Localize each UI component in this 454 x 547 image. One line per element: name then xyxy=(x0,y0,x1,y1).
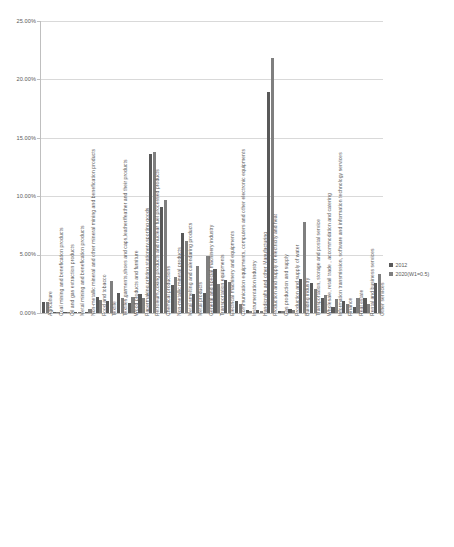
category-label: Food and tobacco xyxy=(101,274,107,316)
category-label: Other services xyxy=(379,282,385,316)
legend-item: 2012 xyxy=(389,262,429,268)
category-label: Transportation, storage and postal servi… xyxy=(315,219,321,316)
bar-chart: 0.00%5.00%10.00%15.00%20.00%25.00% Agric… xyxy=(0,0,454,547)
bar xyxy=(53,312,56,313)
category-label: Non-metallic mineral and other mineral m… xyxy=(90,149,96,316)
category-label: Metal mining and benefication products xyxy=(79,225,85,316)
legend-swatch-2012 xyxy=(389,263,393,267)
bar xyxy=(128,303,131,313)
category-label: Non-metallic mineral products xyxy=(176,247,182,316)
category-label: Instrumentation industry xyxy=(251,260,257,316)
y-axis-line xyxy=(40,21,41,314)
category-label: Real estate xyxy=(358,290,364,316)
category-label: Textile xyxy=(111,301,117,316)
bar xyxy=(85,312,88,313)
bar xyxy=(42,302,45,313)
category-label: Handicrafts and other Manufacturing xyxy=(262,232,268,316)
legend-label: 2020(W1=0.5) xyxy=(396,271,430,277)
bar xyxy=(278,311,281,313)
category-label: Communication equipments, computers and … xyxy=(240,149,246,316)
category-label: Metal products xyxy=(197,282,203,316)
category-label: Rental and business services xyxy=(369,248,375,316)
category-label: Production and supply of water xyxy=(294,245,300,316)
category-label: Papermaking,printing,stationery,sporting… xyxy=(144,208,150,316)
bar xyxy=(117,293,120,313)
bar xyxy=(235,301,238,313)
category-label: Chemical productions xyxy=(165,266,171,316)
category-label: Wood products and furniture xyxy=(133,250,139,316)
category-label: Wholesale, retail trade , accommodation … xyxy=(326,193,332,316)
y-axis-tick-label: 25.00% xyxy=(8,18,36,24)
bar xyxy=(310,283,313,313)
category-label: Agriculture xyxy=(47,291,53,316)
category-label: Textiles,garments,shoes and caps,leather… xyxy=(122,159,128,316)
category-label: Oil and gas extraction products xyxy=(69,244,75,316)
y-axis-tick-label: 20.00% xyxy=(8,76,36,82)
chart-legend: 2012 2020(W1=0.5) xyxy=(389,262,429,280)
category-label: Building industry xyxy=(304,278,310,316)
gridline xyxy=(40,138,383,139)
category-label: Gas production and supply xyxy=(283,254,289,316)
category-label: Finance xyxy=(347,298,353,316)
bar xyxy=(171,285,174,313)
legend-swatch-2020 xyxy=(389,272,393,276)
category-label: Electrical machinery and equipments xyxy=(229,231,235,316)
y-axis-tick-label: 10.00% xyxy=(8,193,36,199)
bar xyxy=(160,207,163,313)
bar xyxy=(246,310,249,313)
y-axis-tick-label: 0.00% xyxy=(8,310,36,316)
category-label: General and special machinery industry xyxy=(208,225,214,316)
y-axis-tick-label: 15.00% xyxy=(8,135,36,141)
category-label: Metal smelting and calendaring products xyxy=(187,223,193,316)
gridline xyxy=(40,21,383,22)
category-label: Information transmission, software and i… xyxy=(337,152,343,316)
bar xyxy=(321,298,324,313)
gridline xyxy=(40,79,383,80)
category-label: Petroleum,coking products and nuclear fu… xyxy=(154,169,160,316)
bar xyxy=(203,293,206,313)
bar xyxy=(353,307,356,313)
category-label: Transportation equipments xyxy=(219,254,225,316)
legend-label: 2012 xyxy=(396,262,408,268)
y-axis-tick-label: 5.00% xyxy=(8,251,36,257)
category-label: Coal mining and benefication products xyxy=(58,228,64,317)
legend-item: 2020(W1=0.5) xyxy=(389,271,429,277)
category-label: Production and supply of electricity and… xyxy=(272,214,278,316)
